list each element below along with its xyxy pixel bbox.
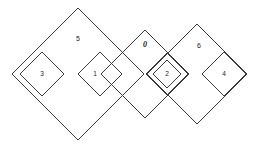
label-region-5: 5 <box>76 35 80 42</box>
diamond-venn-diagram: 5 3 1 0 2 6 4 <box>0 0 261 147</box>
diamond-region-6[interactable] <box>147 24 247 124</box>
label-region-3: 3 <box>40 70 44 77</box>
diamond-region-1[interactable] <box>78 52 122 96</box>
label-region-1: 1 <box>93 70 97 77</box>
label-region-4: 4 <box>222 70 226 77</box>
diagram-canvas: 5 3 1 0 2 6 4 <box>0 0 261 147</box>
label-region-2: 2 <box>165 70 169 77</box>
label-region-6: 6 <box>197 42 201 49</box>
label-region-0: 0 <box>143 40 147 49</box>
